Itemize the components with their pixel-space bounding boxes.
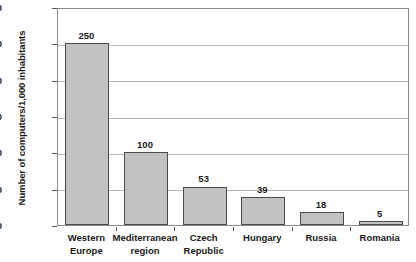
y-axis-tick-label: 0 bbox=[0, 221, 2, 231]
bar bbox=[124, 152, 168, 225]
x-axis-category-label-line: Romania bbox=[340, 232, 416, 245]
bar-value-label: 100 bbox=[115, 140, 175, 150]
x-axis-tick-mark bbox=[116, 227, 117, 231]
x-axis-tick-mark bbox=[233, 227, 234, 231]
bar-value-label: 250 bbox=[56, 31, 116, 41]
bar-value-label: 39 bbox=[232, 185, 292, 195]
gridline bbox=[58, 154, 408, 155]
y-axis-tick-label: 200 bbox=[0, 76, 2, 86]
gridline bbox=[58, 118, 408, 119]
x-axis-tick-mark bbox=[174, 227, 175, 231]
y-axis-title: Number of computers/1,000 inhabitants bbox=[14, 2, 30, 234]
bar-value-label: 53 bbox=[174, 174, 234, 184]
bar-value-label: 18 bbox=[291, 200, 351, 210]
gridline bbox=[58, 81, 408, 82]
bar bbox=[183, 187, 227, 226]
x-axis-tick-mark bbox=[292, 227, 293, 231]
y-axis-tick-label: 50 bbox=[0, 185, 2, 195]
y-axis-tick-label: 250 bbox=[0, 39, 2, 49]
bar bbox=[65, 43, 109, 225]
bar-chart: Number of computers/1,000 inhabitants 05… bbox=[0, 0, 416, 262]
y-axis-tick-label: 100 bbox=[0, 148, 2, 158]
x-axis-tick-mark bbox=[350, 227, 351, 231]
bar bbox=[300, 212, 344, 225]
bar bbox=[359, 221, 403, 225]
x-axis-category-label: Romania bbox=[340, 232, 416, 245]
y-axis-tick-label: 300 bbox=[0, 3, 2, 13]
x-axis-category-label-line: Republic bbox=[164, 245, 244, 258]
bar bbox=[241, 197, 285, 225]
y-axis-tick-mark bbox=[52, 226, 57, 227]
bar-value-label: 5 bbox=[350, 209, 410, 219]
y-axis-tick-label: 150 bbox=[0, 112, 2, 122]
gridline bbox=[58, 45, 408, 46]
